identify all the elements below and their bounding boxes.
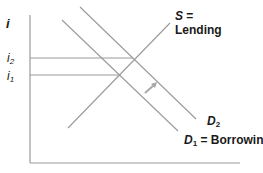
shift-arrow-icon [145, 82, 157, 93]
d2-label: D2 [207, 115, 220, 131]
supply-label: S = [175, 10, 193, 23]
rate-label-i2: i2 [7, 52, 14, 68]
d1-label: D1 = Borrowing [184, 134, 263, 150]
supply-name: Lending [175, 24, 222, 37]
rate-label-i1: i1 [7, 70, 14, 86]
y-axis-label: i [6, 17, 10, 30]
